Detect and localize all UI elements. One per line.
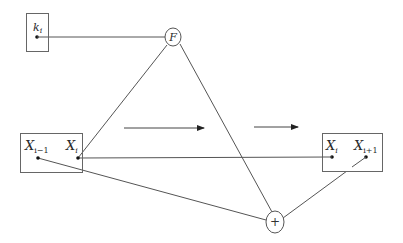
f-label: F <box>168 31 177 44</box>
edge-xi-to-xi-right <box>78 157 332 158</box>
f-node: F <box>165 28 181 46</box>
left-box: Xi−1 Xi <box>21 134 83 173</box>
xor-label: + <box>270 215 280 229</box>
edge-xim1-to-xor <box>38 158 266 220</box>
xor-node: + <box>266 211 284 233</box>
left-box-xi-label: Xi <box>65 138 78 155</box>
right-box: Xi Xi+1 <box>322 134 383 172</box>
left-box-xim1-label: Xi−1 <box>24 138 49 155</box>
key-box: ki <box>27 14 49 52</box>
edge-xi-to-f <box>78 45 167 158</box>
diagram-canvas: ki F + Xi−1 Xi Xi Xi+1 <box>0 0 403 243</box>
xim1-dot <box>36 156 40 160</box>
xi-left-dot <box>76 156 80 160</box>
